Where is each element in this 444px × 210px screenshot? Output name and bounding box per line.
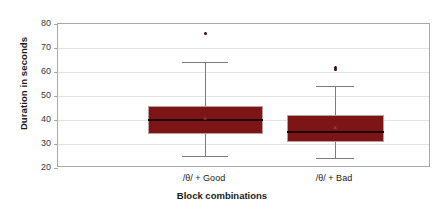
whisker-cap-lower: [182, 156, 228, 157]
y-axis-tick-label: 70: [15, 42, 51, 52]
whisker-cap-upper: [182, 62, 228, 63]
mean-marker: ×: [201, 115, 209, 122]
y-axis-tick-label: 20: [15, 162, 51, 172]
y-axis-tick: [54, 24, 58, 25]
gridline: [58, 96, 429, 97]
y-axis-tick-label: 40: [15, 114, 51, 124]
median-line: [287, 131, 384, 133]
y-axis-tick-label: 50: [15, 90, 51, 100]
y-axis-tick: [54, 168, 58, 169]
plot-area: ××: [57, 23, 430, 167]
y-axis-tick: [54, 144, 58, 145]
y-axis-tick-label: 60: [15, 66, 51, 76]
x-axis-title: Block combinations: [0, 190, 444, 201]
whisker-cap-upper: [316, 86, 355, 87]
x-axis-tick-label: /θ/ + Good: [144, 173, 264, 183]
gridline: [58, 48, 429, 49]
outlier-point: [334, 66, 337, 69]
boxplot-figure: Duration in seconds 80706050403020 ×× /θ…: [0, 0, 444, 210]
whisker-cap-lower: [316, 158, 355, 159]
gridline: [58, 144, 429, 145]
y-axis-title: Duration in seconds: [18, 14, 29, 154]
y-axis-tick: [54, 120, 58, 121]
outlier-point: [204, 32, 207, 35]
x-axis-tick-label: /θ/ + Bad: [274, 173, 394, 183]
y-axis-tick: [54, 48, 58, 49]
mean-marker: ×: [331, 124, 339, 131]
y-axis-tick-label: 80: [15, 18, 51, 28]
y-axis-tick: [54, 96, 58, 97]
y-axis-tick: [54, 72, 58, 73]
y-axis-tick-label: 30: [15, 138, 51, 148]
gridline: [58, 72, 429, 73]
